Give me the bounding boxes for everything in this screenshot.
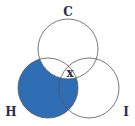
label-c: C xyxy=(63,5,73,19)
label-h: H xyxy=(5,105,16,119)
label-i: I xyxy=(123,105,129,119)
x-mark: x xyxy=(66,66,74,80)
venn-diagram: x C H I xyxy=(0,0,135,126)
